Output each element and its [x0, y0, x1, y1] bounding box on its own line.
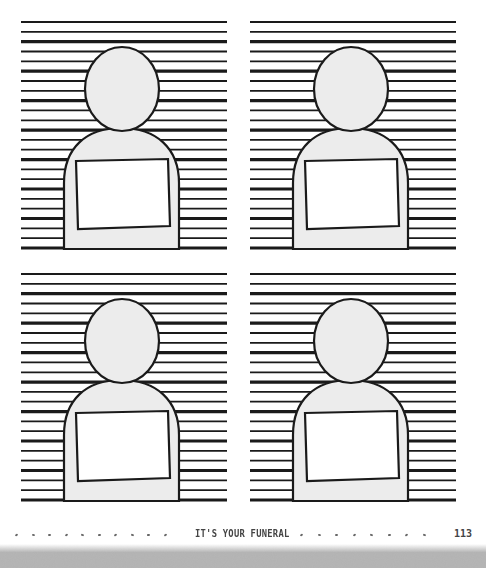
- footer-dot-ornament: [352, 533, 356, 536]
- mugshot-panel-top-left: [21, 18, 227, 250]
- footer-dot-ornament: [300, 533, 304, 536]
- footer-dot-ornament: [422, 534, 425, 537]
- mugshot-panel-top-right: [250, 18, 456, 250]
- page-footer: IT'S YOUR FUNERAL 113: [0, 526, 486, 544]
- page-edge-texture: [0, 544, 486, 568]
- footer-dot-ornament: [405, 533, 409, 536]
- footer-dot-ornament: [130, 534, 133, 537]
- silhouette-head: [85, 299, 159, 383]
- name-placard: [76, 411, 170, 481]
- footer-dot-ornament: [114, 533, 118, 536]
- page-number: 113: [454, 528, 472, 539]
- footer-dot-ornament: [163, 533, 167, 536]
- silhouette-head: [85, 47, 159, 131]
- mugshot-panel-bottom-right: [250, 270, 456, 502]
- name-placard: [305, 159, 399, 229]
- footer-dot-ornament: [370, 534, 373, 537]
- footer-dot-ornament: [15, 533, 19, 536]
- footer-dot-ornament: [81, 534, 84, 537]
- footer-dot-ornament: [31, 534, 34, 537]
- footer-dot-ornament: [317, 534, 320, 537]
- mugshot-panel-bottom-left: [21, 270, 227, 502]
- footer-dot-ornament: [97, 534, 100, 536]
- footer-dot-ornament: [64, 533, 68, 536]
- footer-dot-ornament: [147, 534, 150, 536]
- footer-dot-ornament: [387, 534, 390, 536]
- footer-dot-ornament: [48, 534, 51, 537]
- name-placard: [305, 411, 399, 481]
- running-title: IT'S YOUR FUNERAL: [195, 528, 290, 539]
- silhouette-head: [314, 299, 388, 383]
- name-placard: [76, 159, 170, 229]
- footer-dot-ornament: [335, 534, 338, 537]
- silhouette-head: [314, 47, 388, 131]
